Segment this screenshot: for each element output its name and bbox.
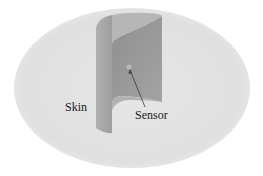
skin-label: Skin bbox=[65, 101, 87, 113]
cylinder-outer-wall bbox=[96, 15, 112, 133]
sensor-marker bbox=[127, 65, 132, 70]
sensor-label: Sensor bbox=[135, 109, 168, 121]
diagram-canvas bbox=[0, 0, 263, 176]
skin-sensor-diagram: Skin Sensor bbox=[0, 0, 263, 176]
